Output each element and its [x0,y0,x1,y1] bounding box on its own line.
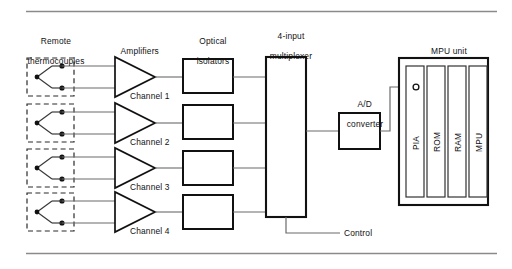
mpu-block-ram [448,66,466,197]
control-line [286,217,340,233]
thermocouple-enclosure [27,149,74,187]
heading-remote-thermocouples: Remote thermocouples [12,26,90,76]
multiplexer-block [266,57,306,217]
mpu-block-mpu [469,66,487,197]
heading-mpu-unit: MPU unit [404,36,484,66]
pia-connector-circle [413,84,419,90]
channel-label-2: Channel 2 [130,137,190,147]
heading-isolators-line1: Optical [199,36,226,46]
heading-adc: A/D converter [329,89,391,139]
thermocouple-node-left [35,166,40,171]
optical-isolator-block [183,105,233,139]
channel-label-4: Channel 4 [130,226,190,236]
channel-label-3: Channel 3 [130,182,190,192]
thermocouple-node-left [35,210,40,215]
control-label: Control [344,228,404,238]
heading-multiplexer-line1: 4-input [278,31,305,41]
heading-thermocouples-line2: thermocouples [27,56,84,66]
optical-isolator-block [183,195,233,229]
heading-thermocouples-line1: Remote [41,36,71,46]
block-diagram-figure: Remote thermocouples Amplifiers Optical … [0,0,512,269]
heading-adc-line2: converter [347,119,383,129]
heading-amplifiers-text: Amplifiers [121,46,159,56]
mpu-block-label-mpu: MPU [474,133,484,152]
mpu-block-label-ram: RAM [453,133,463,152]
heading-amplifiers: Amplifiers [101,36,169,66]
heading-multiplexer: 4-input multiplexer [248,21,324,71]
thermocouple-node-left [35,121,40,126]
heading-mpu-unit-text: MPU unit [431,46,467,56]
optical-isolator-block [183,151,233,185]
mpu-block-label-rom: ROM [432,132,442,152]
thermocouple-enclosure [27,104,74,142]
thermocouple-enclosure [27,193,74,231]
heading-isolators-line2: isolators [197,56,230,66]
mpu-block-label-pia: PIA [411,136,421,150]
heading-multiplexer-line2: multiplexer [270,51,312,61]
channel-label-1: Channel 1 [130,91,190,101]
heading-adc-line1: A/D [358,99,372,109]
heading-optical-isolators: Optical isolators [176,26,240,76]
